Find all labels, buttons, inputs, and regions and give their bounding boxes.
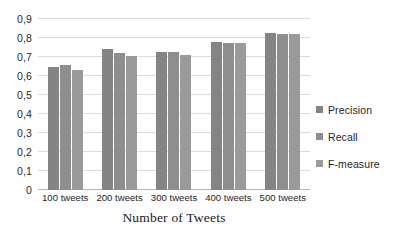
bar (156, 52, 167, 190)
bar (265, 33, 276, 190)
bar (126, 56, 137, 190)
bar (102, 49, 113, 190)
bar (277, 34, 288, 190)
x-axis-tick-label: 400 tweets (205, 192, 251, 203)
x-axis-tick-label: 100 tweets (42, 192, 88, 203)
y-axis-tick-label: 0,3 (17, 127, 32, 139)
y-axis-tick-label: 0,7 (17, 51, 32, 63)
legend-label: Recall (328, 131, 358, 143)
y-axis-tick-label: 0,9 (17, 13, 32, 25)
legend-item-f-measure[interactable]: F-measure (316, 150, 398, 177)
legend-label: F-measure (328, 158, 380, 170)
bar-group (256, 19, 310, 190)
x-axis-tick-label: 200 tweets (96, 192, 142, 203)
bar-group (92, 19, 146, 190)
bar (48, 67, 59, 191)
bar-group (38, 19, 92, 190)
legend-swatch-icon (316, 106, 323, 113)
bar (60, 65, 71, 190)
legend-item-precision[interactable]: Precision (316, 96, 398, 123)
y-axis-tick-label: 0,1 (17, 165, 32, 177)
y-axis-tick-label: 0,4 (17, 108, 32, 120)
bar-group (147, 19, 201, 190)
y-axis-tick-label: 0,2 (17, 146, 32, 158)
legend-label: Precision (328, 104, 372, 116)
bar (235, 43, 246, 190)
legend-swatch-icon (316, 133, 323, 140)
x-axis-tick-labels: 100 tweets200 tweets300 tweets400 tweets… (38, 192, 310, 208)
legend-swatch-icon (316, 160, 323, 167)
bars-layer (38, 19, 310, 190)
bar (114, 53, 125, 190)
bar-chart-figure: 00,10,20,30,40,50,60,70,80,9 100 tweets2… (0, 0, 399, 238)
x-axis-tick-label: 500 tweets (260, 192, 306, 203)
y-axis-tick-label: 0,6 (17, 70, 32, 82)
x-axis-tick-label: 300 tweets (151, 192, 197, 203)
chart-legend: PrecisionRecallF-measure (316, 96, 398, 177)
y-axis-tick-label: 0,8 (17, 32, 32, 44)
bar (180, 55, 191, 190)
bar (168, 52, 179, 190)
legend-item-recall[interactable]: Recall (316, 123, 398, 150)
bar (289, 34, 300, 190)
bar (72, 70, 83, 190)
y-axis-tick-label: 0 (26, 184, 32, 196)
y-axis-tick-label: 0,5 (17, 89, 32, 101)
bar-group (201, 19, 255, 190)
y-axis-tick-labels: 00,10,20,30,40,50,60,70,80,9 (0, 19, 36, 190)
bar (211, 42, 222, 190)
x-axis-title: Number of Tweets (38, 210, 310, 226)
bar (223, 43, 234, 190)
